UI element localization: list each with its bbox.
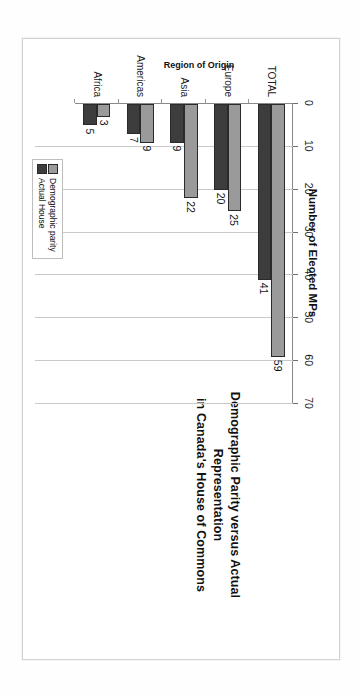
x-axis-tick-label: 10 (303, 140, 315, 152)
category-axis-tick (205, 99, 206, 103)
bar-value-label: 20 (215, 193, 227, 205)
gridline (35, 317, 293, 318)
gridline (35, 232, 293, 233)
bar-parity (140, 104, 154, 143)
bar-value-label: 5 (84, 128, 96, 134)
legend-swatch-icon-actual (37, 164, 47, 174)
bar-value-label: 41 (258, 283, 270, 295)
bar-parity (184, 104, 198, 198)
bar-value-label: 25 (228, 214, 240, 226)
gridline (35, 360, 293, 361)
x-axis-tick (293, 189, 298, 190)
bar-value-label: 7 (128, 137, 140, 143)
category-axis-tick (118, 99, 119, 103)
bar-parity (228, 104, 242, 211)
bar-actual (127, 104, 141, 134)
gridline (35, 403, 293, 404)
x-axis-tick (293, 274, 298, 275)
x-axis-tick-label: 0 (303, 100, 315, 106)
bar-value-label: 59 (272, 360, 284, 372)
category-label: Europe (222, 65, 233, 97)
chart-frame: Demographic Parity versus Actual Represe… (22, 38, 340, 660)
x-axis-tick (293, 403, 298, 404)
chart-legend: Demographic parity Actual House (32, 159, 63, 259)
legend-label-actual: Actual House (37, 178, 47, 229)
bar-value-label: 3 (98, 120, 110, 126)
category-label: TOTAL (266, 66, 277, 97)
x-axis-tick-label: 40 (303, 269, 315, 281)
bar-actual (170, 104, 184, 143)
category-axis-tick (161, 99, 162, 103)
x-axis-tick-label: 30 (303, 226, 315, 238)
bar-value-label: 9 (171, 146, 183, 152)
bar-value-label: 22 (185, 201, 197, 213)
rotated-chart-canvas: Demographic Parity versus Actual Represe… (23, 39, 339, 659)
x-axis-tick-label: 70 (303, 397, 315, 409)
category-label: Americas (135, 55, 146, 97)
legend-swatch-icon-parity (48, 164, 58, 174)
x-axis-tick-label: 50 (303, 311, 315, 323)
x-axis-tick (293, 146, 298, 147)
category-axis-tick (74, 99, 75, 103)
x-axis-tick (293, 317, 298, 318)
plot-area: 010203040506070 TOTALEuropeAsiaAmericasA… (75, 103, 293, 403)
bar-parity (97, 104, 111, 117)
legend-label-parity: Demographic parity (48, 178, 58, 252)
x-axis-tick-label: 60 (303, 354, 315, 366)
x-axis-tick (293, 232, 298, 233)
bar-actual (214, 104, 228, 190)
category-label: Africa (91, 71, 102, 97)
bar-actual (83, 104, 97, 125)
gridline (35, 146, 293, 147)
bar-value-label: 9 (141, 146, 153, 152)
gridline (35, 274, 293, 275)
scanned-page: Demographic Parity versus Actual Represe… (0, 0, 362, 696)
legend-item-demographic-parity: Demographic parity (48, 164, 58, 252)
y-axis-title: Region of Origin (139, 60, 259, 70)
category-label: Asia (179, 78, 190, 97)
bar-parity (271, 104, 285, 357)
x-axis-tick-label: 20 (303, 183, 315, 195)
value-axis-line (292, 103, 293, 403)
x-axis-tick (293, 360, 298, 361)
category-axis-tick (248, 99, 249, 103)
legend-item-actual-house: Actual House (37, 164, 47, 252)
x-axis-tick (293, 103, 298, 104)
gridline (35, 189, 293, 190)
bar-actual (258, 104, 272, 280)
